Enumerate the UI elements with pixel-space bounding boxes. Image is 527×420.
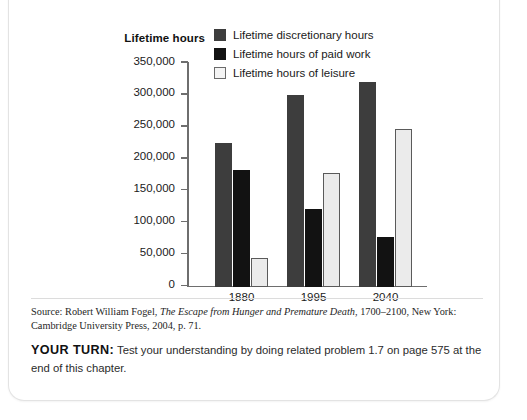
y-axis-tick <box>181 125 188 127</box>
bar <box>305 209 322 287</box>
source-title: The Escape from Hunger and Premature Dea… <box>160 306 355 317</box>
bar <box>251 258 268 287</box>
y-axis-tick <box>181 253 188 255</box>
your-turn-label: YOUR TURN: <box>31 343 114 357</box>
y-axis-tick <box>181 93 188 95</box>
bar <box>395 129 412 287</box>
bar <box>323 173 340 286</box>
y-axis-tick-label: 300,000 <box>105 86 175 98</box>
bar <box>215 143 232 287</box>
y-axis-tick-label: 250,000 <box>105 118 175 130</box>
y-axis-tick-label: 0 <box>105 278 175 290</box>
bar-chart: Lifetime hours Lifetime discretionary ho… <box>9 0 501 317</box>
y-axis-tick <box>181 157 188 159</box>
source-prefix: Source: Robert William Fogel, <box>31 306 160 317</box>
bar <box>359 82 376 287</box>
y-axis-title: Lifetime hours <box>117 32 205 44</box>
bar-group-1995 <box>287 63 340 287</box>
y-axis-tick-label: 200,000 <box>105 150 175 162</box>
plot-region: 050,000100,000150,000200,000250,000300,0… <box>187 57 427 292</box>
y-axis-tick-label: 100,000 <box>105 214 175 226</box>
figure-card: Lifetime hours Lifetime discretionary ho… <box>8 0 500 401</box>
y-axis-tick-label: 350,000 <box>105 55 175 67</box>
bar <box>377 237 394 286</box>
bar <box>287 95 304 287</box>
y-axis-tick <box>181 285 188 287</box>
your-turn-note: YOUR TURN: Test your understanding by do… <box>31 342 483 377</box>
bar-group-2040 <box>359 63 412 287</box>
y-axis-tick <box>181 189 188 191</box>
source-citation: Source: Robert William Fogel, The Escape… <box>31 305 489 332</box>
y-axis-tick-label: 150,000 <box>105 182 175 194</box>
legend-label-discretionary: Lifetime discretionary hours <box>233 29 374 41</box>
y-axis-tick-label: 50,000 <box>105 246 175 258</box>
bar-group-1880 <box>215 63 268 287</box>
bar <box>233 170 250 286</box>
y-axis-tick <box>181 221 188 223</box>
legend-swatch-icon-discretionary <box>214 29 226 41</box>
x-axis-tick-label: 2040 <box>341 291 431 303</box>
legend-item-discretionary: Lifetime discretionary hours <box>214 26 374 43</box>
divider <box>31 298 483 299</box>
y-axis-tick <box>181 61 188 63</box>
